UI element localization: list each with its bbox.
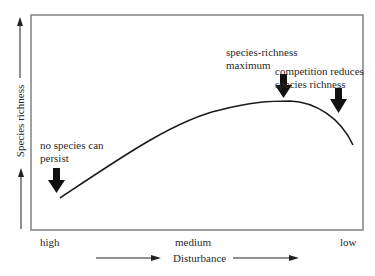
x-axis-label: Disturbance <box>173 252 226 265</box>
arrow-competition-icon <box>330 88 347 113</box>
x-axis-arrow-right <box>233 255 299 261</box>
annotation-competition: competition reduces species richness <box>275 65 364 91</box>
plot-frame <box>31 15 363 230</box>
y-axis-arrow-lower <box>18 168 24 229</box>
diagram-canvas: Species richness no species can persist … <box>0 0 375 276</box>
y-axis-arrow-upper <box>17 17 23 78</box>
y-axis-label: Species richness <box>14 81 26 161</box>
x-tick-low: low <box>340 236 357 249</box>
annotation-no-species: no species can persist <box>40 139 104 165</box>
diagram-graphics <box>0 0 375 276</box>
x-tick-medium: medium <box>175 236 211 249</box>
arrow-no-species-icon <box>48 168 65 193</box>
x-axis-arrow-left <box>96 255 161 261</box>
x-tick-high: high <box>40 236 60 249</box>
